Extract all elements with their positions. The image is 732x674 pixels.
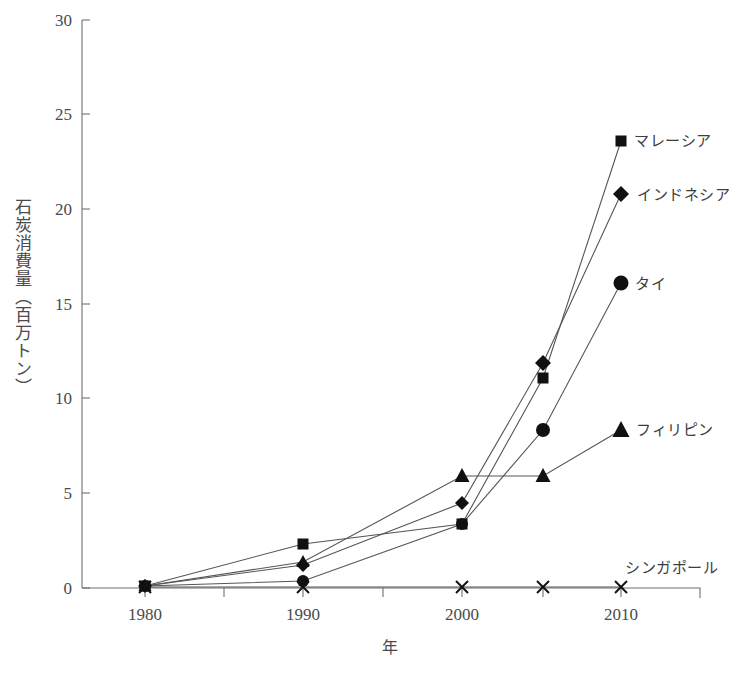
series-line-philippines (145, 430, 621, 586)
y-tick-labels: 30 25 20 15 10 5 0 (55, 11, 72, 598)
series-markers-indonesia (138, 186, 629, 593)
x-axis-line (82, 588, 700, 598)
y-tick-label-25: 25 (55, 105, 72, 124)
data-point-malaysia-2005 (538, 373, 549, 384)
chart-canvas: 30 25 20 15 10 5 0 1980 1990 2000 2010 年 (0, 0, 732, 674)
data-point-philippines-1990 (297, 555, 310, 567)
data-point-philippines-2005 (536, 468, 551, 482)
data-point-malaysia-1990 (298, 539, 309, 550)
data-point-indonesia-2010 (613, 186, 629, 202)
x-tick-label-2000: 2000 (445, 605, 479, 624)
y-tick-label-20: 20 (55, 200, 72, 219)
series-markers-philippines (139, 421, 630, 591)
series-line-thailand (145, 283, 621, 586)
y-tick-label-15: 15 (55, 295, 72, 314)
data-point-malaysia-2010 (616, 136, 627, 147)
series-markers-malaysia (140, 136, 627, 592)
y-axis (82, 20, 90, 588)
data-point-indonesia-2005 (535, 355, 551, 371)
x-axis-title: 年 (382, 639, 398, 656)
series-label-singapore: シンガポール (625, 560, 718, 576)
series-label-indonesia: インドネシア (637, 187, 730, 203)
x-axis (82, 588, 700, 598)
x-tick-label-1980: 1980 (128, 605, 162, 624)
data-point-thailand-2005 (536, 423, 550, 437)
coal-consumption-line-chart: 石炭消費量（百万トン） 30 25 20 15 10 5 0 (0, 0, 732, 674)
y-tick-label-30: 30 (55, 11, 72, 30)
data-point-thailand-2000 (456, 518, 468, 530)
data-point-thailand-2010 (614, 276, 629, 291)
y-tick-label-0: 0 (64, 579, 73, 598)
x-tick-label-2010: 2010 (604, 605, 638, 624)
x-tick-label-1990: 1990 (286, 605, 320, 624)
data-point-indonesia-2000 (455, 496, 469, 510)
y-tick-label-5: 5 (64, 484, 73, 503)
series-line-indonesia (145, 194, 621, 586)
data-point-thailand-1990 (297, 575, 309, 587)
series-label-thailand: タイ (635, 276, 666, 292)
data-point-philippines-2000 (455, 468, 470, 482)
x-tick-labels: 1980 1990 2000 2010 (128, 605, 638, 624)
y-tick-label-10: 10 (55, 389, 72, 408)
series-markers-thailand (139, 276, 629, 593)
series-label-malaysia: マレーシア (634, 133, 712, 149)
series-label-philippines: フィリピン (636, 422, 714, 438)
data-point-philippines-2010 (613, 421, 630, 437)
